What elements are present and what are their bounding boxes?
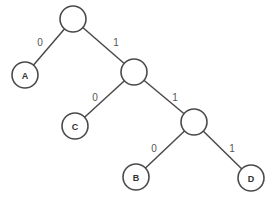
- node-label: D: [248, 174, 255, 184]
- edge-label: 1: [113, 37, 119, 48]
- node-label: B: [133, 173, 140, 183]
- internal-node: [181, 109, 207, 135]
- edge-label: 0: [92, 92, 98, 103]
- edge-label: 1: [229, 143, 235, 154]
- internal-node: [121, 59, 147, 85]
- leaf-node-c: C: [62, 113, 88, 139]
- node-circle: [121, 59, 147, 85]
- leaf-node-b: B: [123, 164, 149, 190]
- edges-group: [25, 19, 251, 178]
- edge-label: 0: [151, 143, 157, 154]
- internal-node: [60, 6, 86, 32]
- edge-label: 0: [37, 37, 43, 48]
- node-circle: [181, 109, 207, 135]
- node-label: A: [22, 71, 29, 81]
- leaf-node-a: A: [12, 62, 38, 88]
- edge-label: 1: [172, 92, 178, 103]
- leaf-node-d: D: [238, 165, 264, 191]
- node-circle: [60, 6, 86, 32]
- nodes-group: ACBD: [12, 6, 264, 191]
- node-label: C: [72, 122, 79, 132]
- tree-diagram: 010101 ACBD: [0, 0, 273, 201]
